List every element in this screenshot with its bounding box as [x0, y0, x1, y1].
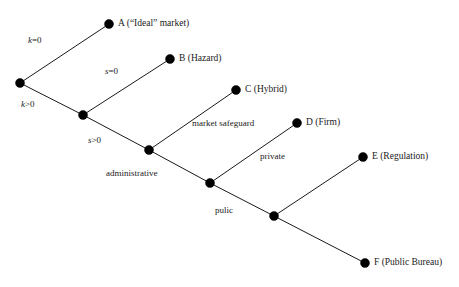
- node-label-a: A (“Ideal” market): [118, 19, 189, 29]
- tree-edge-n0-a: [20, 24, 109, 83]
- tree-node-c: [232, 86, 241, 95]
- tree-graphics: [0, 0, 459, 287]
- edge-label-e-n3-d: private: [260, 152, 285, 161]
- tree-edge-n2-n3: [149, 150, 210, 183]
- node-label-e: E (Regulation): [372, 152, 428, 162]
- node-label-b: B (Hazard): [179, 54, 221, 64]
- decision-tree-diagram: A (“Ideal” market)B (Hazard)C (Hybrid)D …: [0, 0, 459, 287]
- tree-node-b: [166, 55, 175, 64]
- edge-label-e-n2-n3: administrative: [106, 169, 158, 178]
- tree-node-n0: [16, 79, 25, 88]
- tree-node-n4: [270, 212, 279, 221]
- tree-node-n3: [206, 179, 215, 188]
- tree-node-n2: [145, 146, 154, 155]
- edge-label-e-n2-c: market safeguard: [192, 119, 254, 128]
- node-label-f: F (Public Bureau): [374, 258, 442, 268]
- tree-node-e: [359, 153, 368, 162]
- tree-node-n1: [79, 111, 88, 120]
- edge-label-e-n0-a: k=0: [28, 36, 42, 45]
- tree-edge-n4-f: [274, 216, 365, 263]
- node-label-c: C (Hybrid): [245, 85, 287, 95]
- tree-edge-n1-b: [83, 59, 170, 115]
- edge-label-e-n3-n4: pulic: [215, 206, 233, 215]
- edge-label-e-n0-n1: k>0: [21, 100, 35, 109]
- tree-node-f: [361, 259, 370, 268]
- node-label-d: D (Firm): [306, 118, 340, 128]
- edge-label-e-n1-n2: s>0: [88, 136, 101, 145]
- tree-node-a: [105, 20, 114, 29]
- tree-edge-n4-e: [274, 157, 363, 216]
- tree-node-d: [293, 119, 302, 128]
- edge-label-e-n1-b: s=0: [105, 67, 118, 76]
